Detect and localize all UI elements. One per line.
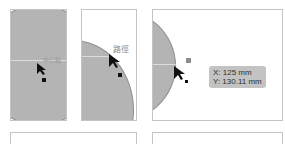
- arrow-cursor-icon: [36, 62, 48, 76]
- anchor-point-icon: [185, 80, 188, 83]
- widget-handle-icon: [186, 58, 191, 63]
- anchor-point-icon: [118, 73, 122, 77]
- panel-center-point: 中心點: [10, 9, 67, 121]
- coordinates-tooltip: X: 125 mm Y: 130.11 mm: [209, 66, 266, 88]
- panel-path: 路徑: [81, 9, 137, 121]
- panel-bottom-left: [10, 132, 137, 144]
- anchor-point-icon: [42, 78, 46, 82]
- arrow-cursor-icon: [173, 65, 187, 81]
- panel-bottom-right: [152, 132, 283, 144]
- tooltip-x: X: 125 mm: [213, 68, 262, 77]
- arrow-cursor-icon: [108, 53, 122, 69]
- panel-coordinates: X: 125 mm Y: 130.11 mm: [152, 9, 283, 121]
- tooltip-y: Y: 130.11 mm: [213, 77, 262, 86]
